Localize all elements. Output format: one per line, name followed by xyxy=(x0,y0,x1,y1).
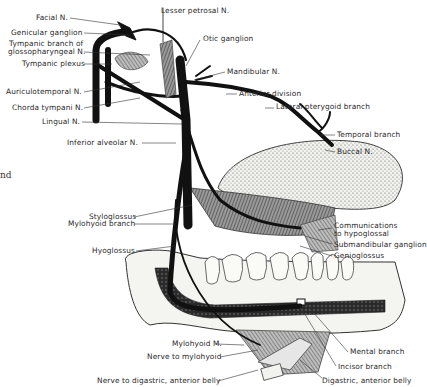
label-temporal-branch: Temporal branch xyxy=(337,131,400,139)
label-anterior-division: Anterior division xyxy=(239,90,301,98)
label-lingual-n: Lingual N. xyxy=(42,118,80,126)
label-geniculate-ganglion: Genicular ganglion xyxy=(11,29,82,37)
label-mylohyoid-branch: Mylohyoid branch xyxy=(68,220,135,228)
label-chorda-tympani-n: Chorda tympani N. xyxy=(12,104,83,112)
label-mental-branch: Mental branch xyxy=(350,348,404,356)
label-facial-n: Facial N. xyxy=(36,14,68,22)
label-communications-line2: to hypoglossal xyxy=(334,230,389,238)
teeth xyxy=(205,252,354,284)
label-otic-ganglion: Otic ganglion xyxy=(203,35,253,43)
cropped-text-fragment: nd xyxy=(0,170,12,180)
label-auriculotemporal-n: Auriculotemporal N. xyxy=(6,88,82,96)
label-lesser-petrosal-n: Lesser petrosal N. xyxy=(161,7,229,15)
label-nerve-to-mylohyoid: Nerve to mylohyoid xyxy=(147,353,221,361)
label-digastric-anterior-belly: Digastric, anterior belly xyxy=(322,377,411,385)
label-incisor-branch: Incisor branch xyxy=(338,363,392,371)
label-hyoglossus: Hyoglossus xyxy=(92,247,135,255)
label-mylohyoid-m: Mylohyoid M. xyxy=(172,340,222,348)
label-tympanic-branch-line2: glossopharyngeal N. xyxy=(8,48,85,56)
label-tympanic-plexus: Tympanic plexus xyxy=(22,60,85,68)
label-nerve-to-digastric: Nerve to digastric, anterior belly xyxy=(97,377,221,385)
label-genioglossus: Genioglossus xyxy=(334,252,384,260)
label-inferior-alveolar-n: Inferior alveolar N. xyxy=(67,139,138,147)
label-buccal-n: Buccal N. xyxy=(337,148,373,156)
label-lateral-pterygoid-branch: Lateral pterygoid branch xyxy=(276,103,370,111)
label-submandibular-ganglion: Submandibular ganglion xyxy=(334,241,427,249)
otic-ganglion-art xyxy=(160,40,176,98)
label-mandibular-n: Mandibular N. xyxy=(227,68,280,76)
